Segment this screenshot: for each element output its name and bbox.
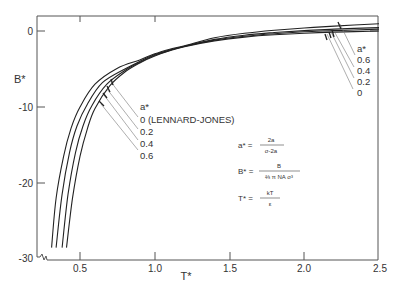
equation-b-den: ⅔ π NA σ³ xyxy=(265,174,293,180)
right-label-0.6: 0.6 xyxy=(357,54,370,65)
y-tick-minus30: -30 xyxy=(19,253,34,264)
virial-coefficient-chart: 0 -10 -20 -30 B* 0.5 1.0 1.5 2.0 2.5 T* xyxy=(0,0,399,288)
equation-b-lhs: B* = xyxy=(238,167,254,176)
equation-a-num: 2a xyxy=(268,137,275,143)
x-axis-label: T* xyxy=(181,270,193,282)
right-label-0: 0 xyxy=(357,87,362,98)
plot-frame xyxy=(37,16,378,260)
left-leader-lines xyxy=(101,82,138,150)
x-tick-1.5: 1.5 xyxy=(223,263,237,274)
right-label-0.4: 0.4 xyxy=(357,65,370,76)
left-label-0.6: 0.6 xyxy=(140,150,153,161)
y-tick-0: 0 xyxy=(27,26,33,37)
x-tick-0.5: 0.5 xyxy=(73,263,87,274)
right-label-0.2: 0.2 xyxy=(357,76,370,87)
curve-a-star-0 xyxy=(67,31,380,248)
y-tick-minus20: -20 xyxy=(19,178,34,189)
x-axis: 0.5 1.0 1.5 2.0 2.5 T* xyxy=(73,16,387,282)
equation-t-den: ε xyxy=(269,201,272,207)
x-tick-2.5: 2.5 xyxy=(373,263,387,274)
equations: a* = 2a σ-2a B* = B ⅔ π NA σ³ T* = kT ε xyxy=(238,137,300,207)
y-tick-minus10: -10 xyxy=(19,102,34,113)
equation-t-num: kT xyxy=(267,190,274,196)
left-label-0.4: 0.4 xyxy=(140,138,153,149)
equation-a-den: σ-2a xyxy=(265,148,278,154)
equation-b-num: B xyxy=(277,163,281,169)
curve-group xyxy=(52,24,379,248)
left-tick-marks xyxy=(99,79,113,106)
curve-a-star-0-2 xyxy=(62,29,379,248)
equation-a-lhs: a* = xyxy=(238,141,253,150)
left-label-lennard-jones: 0 (LENNARD-JONES) xyxy=(140,114,235,125)
curve-a-star-0-4 xyxy=(56,28,379,248)
equation-t-lhs: T* = xyxy=(238,194,253,203)
left-legend-title: a* xyxy=(140,101,149,112)
left-label-0.2: 0.2 xyxy=(140,126,153,137)
y-axis-label: B* xyxy=(14,73,26,85)
curve-a-star-0-6 xyxy=(52,24,379,248)
right-legend-title: a* xyxy=(357,43,366,54)
x-tick-1.0: 1.0 xyxy=(148,263,162,274)
right-leader-lines xyxy=(327,24,355,89)
left-legend: a* 0 (LENNARD-JONES) 0.2 0.4 0.6 xyxy=(140,101,235,161)
x-tick-2.0: 2.0 xyxy=(297,263,311,274)
right-legend: a* 0.6 0.4 0.2 0 xyxy=(357,43,370,98)
